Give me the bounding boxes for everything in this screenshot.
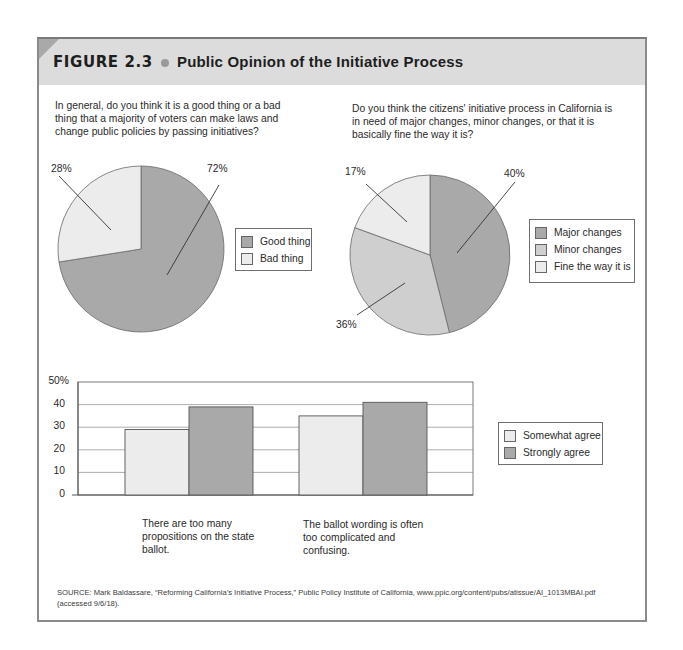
swatch-good-icon (241, 236, 253, 248)
ytick-30: 30 (35, 420, 65, 431)
ytick-50: 50% (39, 375, 69, 386)
legend-label: Major changes (554, 227, 622, 238)
bar-legend: Somewhat agree Strongly agree (498, 422, 603, 465)
swatch-bad-icon (241, 253, 253, 265)
legend-item-good: Good thing (241, 233, 306, 250)
pie1-legend: Good thing Bad thing (235, 228, 312, 271)
figure-frame: FIGURE 2.3Public Opinion of the Initiati… (37, 37, 647, 622)
legend-label: Somewhat agree (523, 430, 601, 441)
ytick-20: 20 (35, 443, 65, 454)
legend-item-strongly: Strongly agree (504, 444, 597, 461)
ytick-10: 10 (35, 465, 65, 476)
bar-g1-strongly (189, 407, 253, 495)
legend-label: Bad thing (260, 253, 304, 264)
pie1-label-good: 72% (207, 163, 228, 174)
swatch-minor-icon (535, 244, 547, 256)
legend-item-somewhat: Somewhat agree (504, 427, 597, 444)
legend-label: Minor changes (554, 244, 622, 255)
swatch-somewhat-icon (504, 430, 516, 442)
legend-label: Fine the way it is (554, 261, 631, 272)
pie2-label-fine: 17% (345, 166, 366, 177)
swatch-fine-icon (535, 261, 547, 273)
legend-label: Strongly agree (523, 447, 590, 458)
pie2 (350, 175, 515, 335)
pie1-label-bad: 28% (51, 163, 72, 174)
ytick-0: 0 (35, 488, 65, 499)
legend-item-bad: Bad thing (241, 250, 306, 267)
legend-item-major: Major changes (535, 224, 629, 241)
bar-g2-strongly (363, 402, 427, 495)
source-note: SOURCE: Mark Baldassare, “Reforming Cali… (57, 587, 617, 609)
bar-g2-somewhat (299, 416, 363, 495)
pie1 (58, 166, 224, 332)
bar-category-2: The ballot wording is often too complica… (303, 518, 428, 557)
legend-label: Good thing (260, 236, 310, 247)
pie2-legend: Major changes Minor changes Fine the way… (529, 219, 635, 283)
bar-g1-somewhat (125, 430, 189, 496)
ytick-40: 40 (35, 398, 65, 409)
bar-category-1: There are too many propositions on the s… (142, 517, 262, 556)
pie1-slice-bad (58, 166, 141, 262)
pie2-label-major: 40% (504, 168, 525, 179)
swatch-major-icon (535, 227, 547, 239)
bar-chart (72, 382, 473, 495)
swatch-strongly-icon (504, 447, 516, 459)
legend-item-minor: Minor changes (535, 241, 629, 258)
legend-item-fine: Fine the way it is (535, 258, 629, 275)
pie2-label-minor: 36% (336, 319, 357, 330)
